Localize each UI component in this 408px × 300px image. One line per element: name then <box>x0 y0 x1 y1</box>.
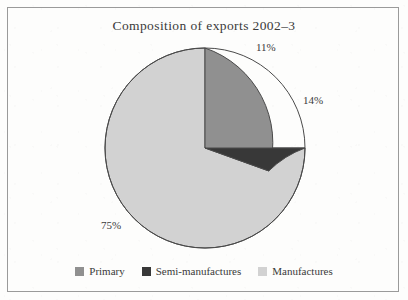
legend-label-manufactures: Manufactures <box>272 266 332 277</box>
legend-item-semi-manufactures[interactable]: Semi-manufactures <box>142 266 242 277</box>
figure-page: Composition of exports 2002–3 11% 14% 75… <box>0 0 408 300</box>
legend-label-primary: Primary <box>89 266 124 277</box>
chart-legend: Primary Semi-manufactures Manufactures <box>0 266 408 277</box>
data-label-semi-manufactures: 14% <box>303 94 323 106</box>
legend-item-primary[interactable]: Primary <box>75 266 124 277</box>
legend-item-manufactures[interactable]: Manufactures <box>258 266 332 277</box>
data-label-primary: 11% <box>256 41 276 53</box>
legend-swatch-primary <box>75 267 84 276</box>
pie-chart <box>103 46 307 250</box>
legend-swatch-semi-manufactures <box>142 267 151 276</box>
chart-title: Composition of exports 2002–3 <box>0 18 408 34</box>
pie-chart-svg <box>103 46 307 250</box>
legend-swatch-manufactures <box>258 267 267 276</box>
data-label-manufactures: 75% <box>101 219 121 231</box>
legend-label-semi-manufactures: Semi-manufactures <box>156 266 242 277</box>
